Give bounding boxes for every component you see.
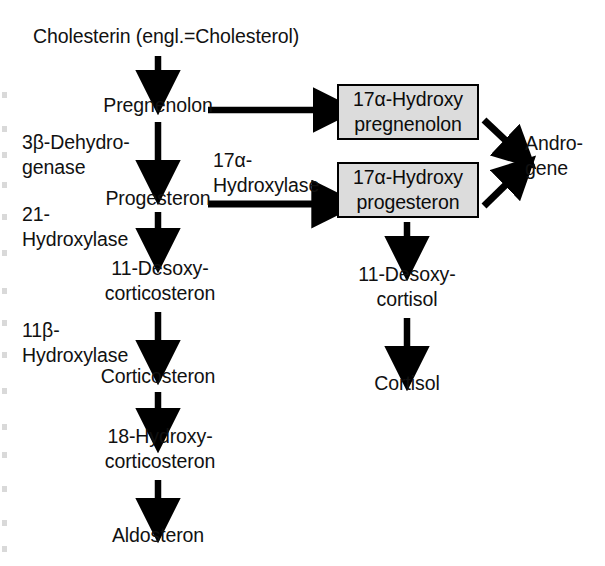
scan-artifact <box>2 152 7 158</box>
scan-artifact <box>2 452 7 458</box>
node-androgene: Andro- gene <box>525 131 583 181</box>
box-label-hydroxypregnenolon: 17α-Hydroxy pregnenolon <box>353 87 463 137</box>
node-hydroxycorticosteron: 18-Hydroxy- corticosteron <box>105 424 215 474</box>
node-cholesterin: Cholesterin (engl.=Cholesterol) <box>33 24 299 49</box>
scan-artifact <box>2 214 7 220</box>
scan-artifact <box>2 352 7 358</box>
node-desoxycorticosteron: 11-Desoxy- corticosteron <box>105 256 215 306</box>
scan-artifact <box>2 288 7 294</box>
node-cortisol: Cortisol <box>374 371 439 396</box>
arrow-layer <box>0 0 605 566</box>
node-pregnenolon: Pregnenolon <box>103 93 213 118</box>
enzyme-label-11beta-hydroxylase: 11β- Hydroxylase <box>22 318 128 368</box>
box-17alpha-hydroxy-pregnenolon: 17α-Hydroxy pregnenolon <box>337 84 479 140</box>
scan-artifact <box>2 126 7 132</box>
arrow-hydroxypregnenolon-to-androgene <box>484 120 519 153</box>
scan-artifact <box>2 546 7 552</box>
scan-artifact <box>2 424 7 430</box>
pathway-diagram: Cholesterin (engl.=Cholesterol) Pregneno… <box>0 0 605 566</box>
box-17alpha-hydroxy-progesteron: 17α-Hydroxy progesteron <box>337 162 479 218</box>
arrow-hydroxyprogesteron-to-androgene <box>484 172 519 206</box>
scan-artifact <box>2 250 7 256</box>
enzyme-label-17alpha-hydroxylase: 17α- Hydroxylase <box>213 148 319 198</box>
node-aldosteron: Aldosteron <box>112 523 204 548</box>
enzyme-label-21-hydroxylase: 21- Hydroxylase <box>22 202 128 252</box>
scan-artifact <box>2 92 7 98</box>
enzyme-label-3beta-dehydrogenase: 3β-Dehydro- genase <box>22 130 130 180</box>
scan-artifact <box>2 520 7 526</box>
box-label-hydroxyprogesteron: 17α-Hydroxy progesteron <box>353 165 463 215</box>
scan-artifact <box>2 388 7 394</box>
node-desoxycortisol: 11-Desoxy- cortisol <box>358 262 455 312</box>
scan-artifact <box>2 182 7 188</box>
scan-artifact <box>2 486 7 492</box>
scan-artifact <box>2 320 7 326</box>
